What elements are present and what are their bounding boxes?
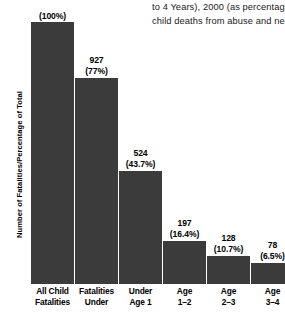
bar-age-3-4[interactable] [251,263,285,284]
bar-group: 927 (77%) [75,0,118,284]
bar-group: (100%) [31,0,74,284]
bar-chart-plot-area: (100%) 927 (77%) 524 (43.7%) 197 (16.4%)… [26,0,285,284]
x-tick-line-2: 3–4 [245,297,285,308]
bar-value-percent: (77%) [66,66,127,77]
bar-value-label: 927 (77%) [66,55,127,76]
bar-value-label: (100%) [22,11,83,22]
bar-value-number: 927 [66,55,127,66]
bar-group: 78 (6.5%) [251,0,285,284]
bar-value-percent: (6.5%) [242,251,285,262]
x-tick-line-1: Age [245,286,285,297]
x-tick-age-3-4: Age 3–4 [245,286,285,308]
bar-value-percent: (43.7%) [110,159,171,170]
bar-value-percent: (100%) [22,11,83,22]
bar-value-label: 78 (6.5%) [242,240,285,261]
bar-value-number: 78 [242,240,285,251]
bar-fatalities-under[interactable] [75,78,118,284]
y-axis-label: Number of Fatalities/Percentage of Total [15,50,24,280]
bar-value-number: 197 [154,218,215,229]
bar-group: 524 (43.7%) [119,0,162,284]
bar-value-number: 524 [110,148,171,159]
bar-value-label: 524 (43.7%) [110,148,171,169]
x-axis-labels: All Child Fatalities Fatalities Under Un… [26,286,285,316]
